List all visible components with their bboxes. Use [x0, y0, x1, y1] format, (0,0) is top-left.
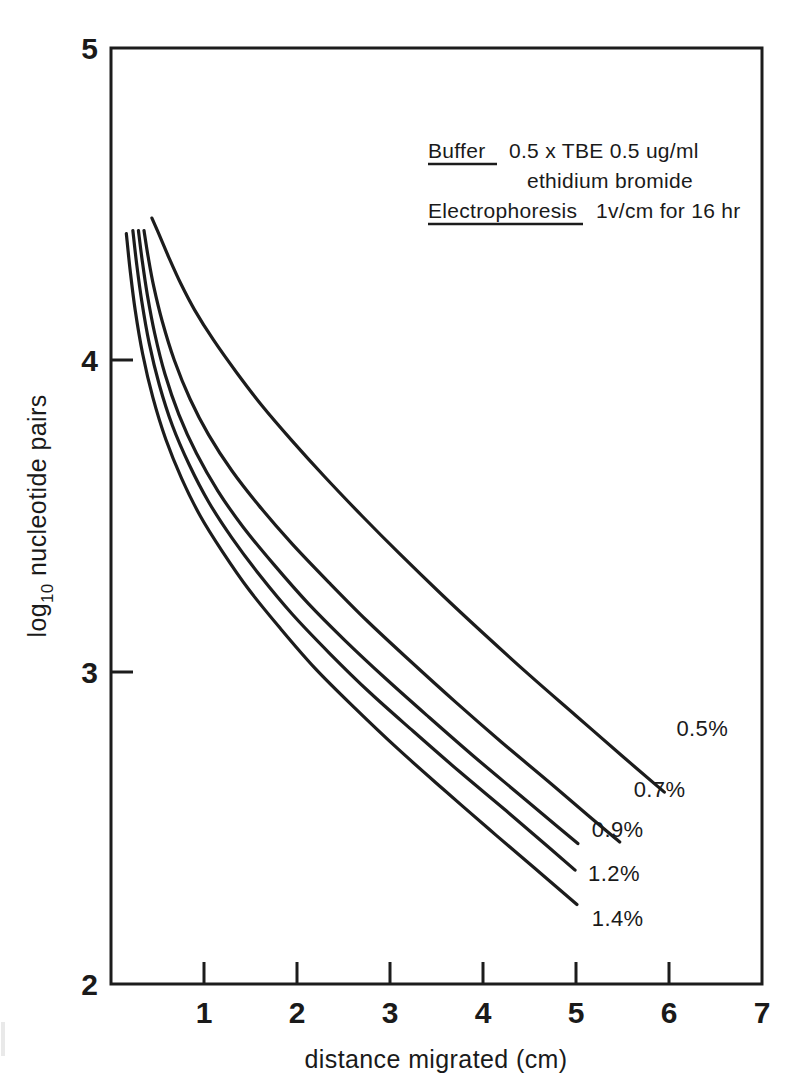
y-tick-label-2: 2	[81, 968, 98, 1001]
x-tick-label-5: 5	[568, 996, 585, 1029]
curve-group	[126, 218, 664, 904]
annotation-buffer-heading: Buffer	[428, 139, 485, 162]
x-tick-label-4: 4	[475, 996, 492, 1029]
y-axis-title-subscript: 10	[38, 583, 57, 603]
series-label-0.5: 0.5%	[676, 716, 728, 741]
migration-chart: 1 2 3 4 5 6 7 2 3 4 5 distance migrated …	[0, 0, 809, 1092]
x-tick-label-3: 3	[382, 996, 399, 1029]
annotation-buffer: Buffer 0.5 x TBE 0.5 ug/ml ethidium brom…	[428, 139, 699, 192]
series-label-1.2: 1.2%	[588, 861, 640, 886]
curve-1.4	[126, 234, 577, 905]
x-tick-label-6: 6	[661, 996, 678, 1029]
annotation-electrophoresis: Electrophoresis 1v/cm for 16 hr	[428, 199, 741, 224]
figure-container: 1 2 3 4 5 6 7 2 3 4 5 distance migrated …	[0, 0, 809, 1092]
series-label-group: 0.5% 0.7% 0.9% 1.2% 1.4%	[588, 716, 728, 931]
annotation-electrophoresis-heading: Electrophoresis	[428, 199, 577, 222]
annotation-buffer-line-1: 0.5 x TBE 0.5 ug/ml	[509, 139, 699, 162]
series-label-0.9: 0.9%	[592, 817, 644, 842]
y-tick-label-3: 3	[81, 656, 98, 689]
y-tick-label-4: 4	[81, 344, 98, 377]
y-axis-title-prefix: log	[23, 603, 51, 638]
svg-text:Electrophoresis: Electrophoresis	[428, 199, 577, 222]
annotation-buffer-line-2: ethidium bromide	[527, 169, 693, 192]
y-axis-title-main: nucleotide pairs	[23, 394, 51, 576]
x-axis-ticks	[204, 962, 669, 984]
svg-text:log10 nucleotide pairs: log10 nucleotide pairs	[23, 394, 57, 637]
series-label-0.7: 0.7%	[634, 777, 686, 802]
y-tick-label-5: 5	[81, 32, 98, 65]
y-axis-title: log10 nucleotide pairs	[23, 394, 57, 637]
x-tick-label-7: 7	[754, 996, 771, 1029]
curve-1.2	[133, 231, 575, 871]
series-label-1.4: 1.4%	[592, 906, 644, 931]
x-tick-label-2: 2	[289, 996, 306, 1029]
x-tick-label-1: 1	[196, 996, 213, 1029]
x-axis-title: distance migrated (cm)	[304, 1045, 567, 1073]
annotation-electrophoresis-line-1: 1v/cm for 16 hr	[596, 199, 741, 222]
svg-text:Buffer: Buffer	[428, 139, 485, 162]
y-axis-ticks	[111, 360, 133, 672]
